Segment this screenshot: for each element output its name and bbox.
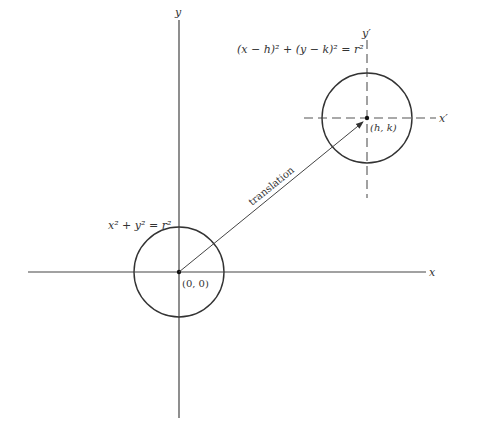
origin-circle-equation: x² + y² = r² <box>108 219 171 232</box>
circle-translation-diagram: x y x′ y′ (0, 0) (h, k) x² + y² = r² (x … <box>0 0 478 436</box>
y-axis-label: y <box>174 6 182 19</box>
translation-arrow <box>179 122 363 272</box>
translation-label: translation <box>246 164 296 208</box>
y-prime-label: y′ <box>361 27 371 40</box>
translated-circle-equation: (x − h)² + (y − k)² = r² <box>237 43 364 56</box>
x-axis-label: x <box>429 266 436 279</box>
translated-center-label: (h, k) <box>370 122 397 133</box>
origin-label: (0, 0) <box>182 278 209 289</box>
x-prime-label: x′ <box>439 112 448 125</box>
translated-center-point <box>365 116 369 120</box>
